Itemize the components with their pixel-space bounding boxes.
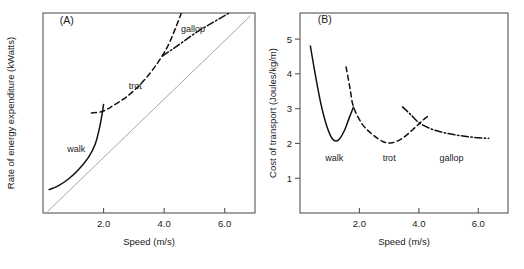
figure-container: 2.04.06.0(A)walktrotgallopSpeed (m/s)Rat… [0, 0, 524, 269]
plot-frame [300, 13, 508, 213]
curve-trot [346, 67, 429, 143]
x-axis-label: Speed (m/s) [123, 236, 175, 247]
y-tick-label: 4 [287, 68, 292, 79]
plot-frame [43, 13, 255, 213]
curve-walk [310, 46, 353, 141]
curve-trot [91, 3, 185, 113]
panel-tag: (B) [318, 13, 332, 25]
chart-panel-a: 2.04.06.0(A)walktrotgallopSpeed (m/s)Rat… [0, 0, 262, 269]
curve-reference-line [48, 16, 251, 212]
chart-panel-b: 2.04.06.012345(B)walktrotgallopSpeed (m/… [262, 0, 524, 269]
gait-label-trot: trot [129, 81, 143, 91]
x-tick-label: 6.0 [472, 218, 485, 229]
curve-gallop [403, 107, 489, 138]
x-tick-label: 2.0 [353, 218, 366, 229]
y-axis-label: Rate of energy expenditure (kWatts) [5, 37, 16, 189]
gait-label-walk: walk [324, 153, 344, 163]
y-tick-label: 3 [287, 103, 292, 114]
curve-layer [48, 3, 251, 212]
gait-label-trot: trot [383, 153, 397, 163]
x-axis-label: Speed (m/s) [378, 236, 430, 247]
x-tick-label: 6.0 [218, 218, 231, 229]
y-tick-label: 2 [287, 138, 292, 149]
y-tick-label: 1 [287, 173, 292, 184]
y-axis-label: Cost of transport (Joules/kg/m) [267, 48, 278, 178]
gait-label-gallop: gallop [181, 24, 205, 34]
gait-label-walk: walk [66, 144, 86, 154]
x-tick-label: 2.0 [97, 218, 110, 229]
y-tick-label: 5 [287, 34, 292, 45]
x-tick-label: 4.0 [412, 218, 425, 229]
panel-tag: (A) [60, 14, 74, 26]
gait-label-gallop: gallop [440, 153, 464, 163]
chart-a-svg: 2.04.06.0(A)walktrotgallopSpeed (m/s)Rat… [0, 0, 262, 269]
chart-b-svg: 2.04.06.012345(B)walktrotgallopSpeed (m/… [262, 0, 524, 269]
x-tick-label: 4.0 [158, 218, 171, 229]
curve-layer [310, 46, 488, 143]
